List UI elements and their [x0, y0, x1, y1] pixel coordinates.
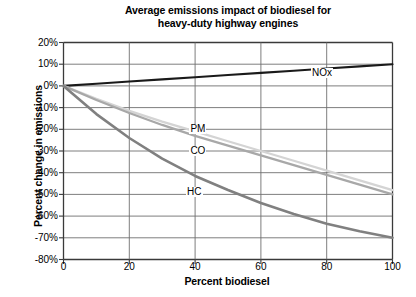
- y-tick-label: -60%: [12, 211, 58, 221]
- chart-figure: Average emissions impact of biodiesel fo…: [0, 0, 416, 297]
- y-tick-label: -30%: [12, 146, 58, 156]
- chart-title-line-2: heavy-duty highway engines: [60, 17, 396, 30]
- y-axis-tick-labels: 20%10%0%-10%-20%-30%-40%-50%-60%-70%-80%: [8, 0, 58, 297]
- x-tick-label: 80: [307, 262, 347, 272]
- chart-title: Average emissions impact of biodiesel fo…: [60, 4, 396, 30]
- y-tick-label: -40%: [12, 168, 58, 178]
- series-label-hc: HC: [186, 187, 202, 197]
- x-tick-label: 40: [175, 262, 215, 272]
- y-tick-label: -20%: [12, 124, 58, 134]
- x-tick-label: 100: [373, 262, 413, 272]
- series-label-co: CO: [189, 146, 206, 156]
- y-tick-label: -50%: [12, 189, 58, 199]
- y-tick-label: -10%: [12, 103, 58, 113]
- x-tick-label: 20: [109, 262, 149, 272]
- y-tick-label: 10%: [12, 59, 58, 69]
- plot-area: [0, 0, 416, 297]
- x-tick-label: 0: [44, 262, 84, 272]
- x-tick-label: 60: [241, 262, 281, 272]
- y-tick-label: 0%: [12, 81, 58, 91]
- x-axis-tick-labels: 020406080100: [0, 262, 416, 276]
- y-tick-label: -70%: [12, 233, 58, 243]
- series-label-nox: NOx: [311, 68, 333, 78]
- x-axis-label: Percent biodiesel: [62, 275, 392, 287]
- series-label-pm: PM: [189, 124, 206, 134]
- y-tick-label: 20%: [12, 38, 58, 48]
- chart-title-line-1: Average emissions impact of biodiesel fo…: [60, 4, 396, 17]
